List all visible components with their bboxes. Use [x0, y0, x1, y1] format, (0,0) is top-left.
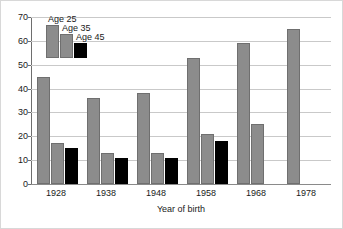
- x-axis-tick-label: 1968: [234, 187, 278, 199]
- y-axis-tick-marks: [1, 17, 31, 184]
- bar: [251, 124, 264, 184]
- chart-legend: Age 25Age 35Age 45: [46, 9, 156, 61]
- bar-group: [181, 17, 231, 184]
- bar: [215, 141, 228, 184]
- bar: [237, 43, 250, 184]
- bar: [165, 158, 178, 184]
- x-axis-baseline: [31, 184, 331, 185]
- bar: [201, 134, 214, 184]
- x-axis-tick-labels: 192819381948195819681978: [31, 187, 331, 201]
- bar: [87, 98, 100, 184]
- bar: [137, 93, 150, 184]
- x-axis-title: Year of birth: [31, 204, 331, 214]
- legend-swatch: [46, 25, 59, 58]
- bar-group: [281, 17, 331, 184]
- x-axis-tick-label: 1938: [84, 187, 128, 199]
- bar: [37, 77, 50, 184]
- bar-group: [231, 17, 281, 184]
- x-axis-tick-label: 1928: [34, 187, 78, 199]
- bar: [51, 143, 64, 184]
- legend-label: Age 45: [76, 32, 105, 42]
- legend-swatch: [74, 43, 87, 58]
- bar: [187, 58, 200, 184]
- x-axis-tick-label: 1978: [284, 187, 328, 199]
- bar: [151, 153, 164, 184]
- x-axis-tick-label: 1948: [134, 187, 178, 199]
- legend-swatch: [60, 34, 73, 58]
- bar-chart-figure: 010203040506070 Age 25Age 35Age 45 19281…: [0, 0, 343, 229]
- bar: [101, 153, 114, 184]
- bar: [287, 29, 300, 184]
- x-axis-tick-label: 1958: [184, 187, 228, 199]
- bar: [65, 148, 78, 184]
- bar: [115, 158, 128, 184]
